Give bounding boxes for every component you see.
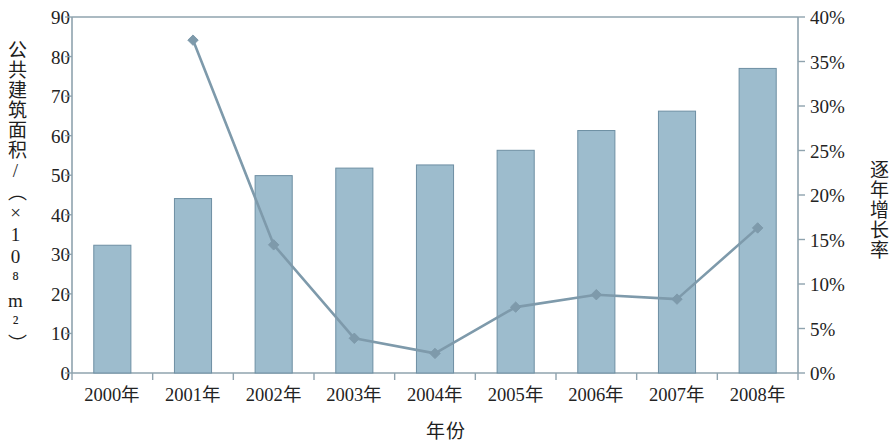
bar [658,111,695,373]
bar [497,150,534,373]
bar [416,165,453,373]
bar [578,131,615,373]
bar [174,199,211,373]
plot-area [0,0,892,444]
bar [94,245,131,373]
chart-figure: 公共建筑面积/（×10⁸m²） 逐年增长率 年份 010203040506070… [0,0,892,444]
growth-rate-marker [188,35,198,45]
bar [739,68,776,373]
bar [255,176,292,373]
